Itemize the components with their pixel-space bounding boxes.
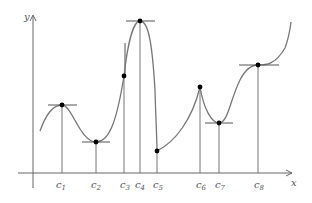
critical-points-diagram: y x c1 c2 (0, 0, 312, 203)
function-curve (40, 21, 291, 151)
tick-label-c8: c8 (254, 179, 265, 192)
drop-lines (62, 21, 258, 173)
tick-labels: c1 c2 c3 c4 c5 c6 c7 c8 (56, 179, 265, 192)
tick-label-c1: c1 (56, 179, 66, 192)
tick-label-c6: c6 (196, 179, 207, 192)
y-axis-label: y (23, 11, 30, 22)
tick-label-c7: c7 (215, 179, 226, 192)
tick-label-c3: c3 (120, 179, 131, 192)
tangent-lines (48, 21, 279, 142)
critical-point-markers (60, 19, 261, 154)
tick-label-c2: c2 (91, 179, 102, 192)
tick-label-c5: c5 (153, 179, 164, 192)
x-axis-label: x (291, 177, 297, 188)
tick-label-c4: c4 (135, 179, 145, 192)
